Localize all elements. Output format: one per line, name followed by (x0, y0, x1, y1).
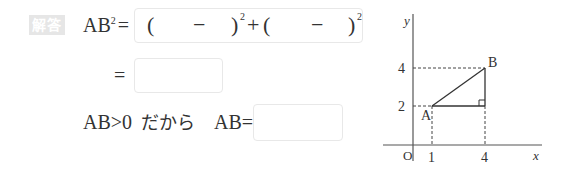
point-a-label: A (421, 108, 432, 123)
y-axis-label: y (402, 13, 410, 28)
origin-label: O (403, 148, 412, 163)
right-angle-mark (479, 100, 485, 106)
coordinate-graph: y x O 4 2 1 4 A B (0, 0, 567, 172)
point-b-label: B (488, 55, 497, 70)
y-tick-2: 2 (398, 99, 405, 114)
y-tick-4: 4 (398, 61, 405, 76)
x-axis-label: x (532, 148, 539, 163)
x-tick-4: 4 (481, 150, 488, 165)
x-tick-1: 1 (428, 150, 435, 165)
segment-ab (432, 68, 485, 106)
